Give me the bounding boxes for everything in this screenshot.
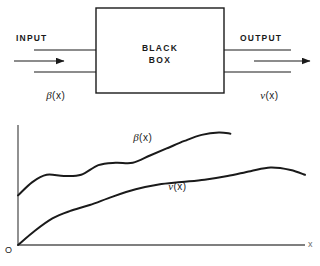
curve-beta-label: β(x) (120, 122, 152, 153)
plot-x-axis-label: x (308, 240, 313, 249)
output-label: OUTPUT (240, 34, 282, 43)
curve-v-label: v(x) (155, 171, 187, 202)
output-signal-label: v(x) (247, 80, 279, 111)
input-signal-label: β(x) (33, 80, 65, 111)
plot-origin-label: O (5, 246, 13, 255)
black-box-label-line1: BLACK (131, 44, 189, 53)
input-label: INPUT (16, 34, 48, 43)
black-box-label-line2: BOX (131, 56, 189, 65)
black-box-figure: INPUT OUTPUT BLACK BOX β(x) v(x) β(x) v(… (0, 0, 320, 266)
